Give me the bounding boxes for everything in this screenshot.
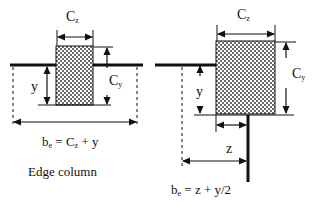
corner-cy-label: Cy — [292, 67, 305, 82]
edge-y-label: y — [31, 80, 38, 94]
edge-cz-label: Cz — [66, 10, 79, 25]
edge-column-diagram — [10, 30, 143, 124]
corner-y-label: y — [196, 85, 203, 99]
column-section — [56, 46, 93, 105]
corner-z-label: z — [226, 142, 232, 156]
column-diagram-canvas — [0, 0, 313, 211]
corner-column-diagram — [155, 25, 296, 182]
edge-formula: be = Cz + y — [42, 135, 98, 150]
edge-column-caption: Edge column — [28, 165, 97, 178]
corner-formula: be = z + y/2 — [171, 183, 231, 198]
column-section — [216, 41, 275, 114]
corner-cz-label: Cz — [237, 8, 250, 23]
edge-cy-label: Cy — [109, 74, 122, 89]
